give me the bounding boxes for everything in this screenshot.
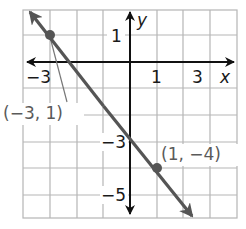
point-1-neg4 [152,163,162,173]
x-axis-label: x [219,67,231,87]
tick-x-neg3: −3 [26,67,51,87]
tick-y-neg3: −3 [101,132,126,152]
tick-y-neg5: −5 [101,185,126,205]
y-axis-label: y [136,10,148,30]
point-label-b: (1, −4) [161,144,221,164]
tick-x-3: 3 [192,67,203,87]
tick-x-1: 1 [151,67,162,87]
point-neg3-1 [45,30,55,40]
tick-y-1: 1 [111,26,122,46]
coordinate-plane: −3 1 3 x 1 y −3 −5 (−3, 1) (1, −4) [0,0,246,229]
graph-line-up [30,12,104,106]
point-label-a: (−3, 1) [3,103,63,123]
